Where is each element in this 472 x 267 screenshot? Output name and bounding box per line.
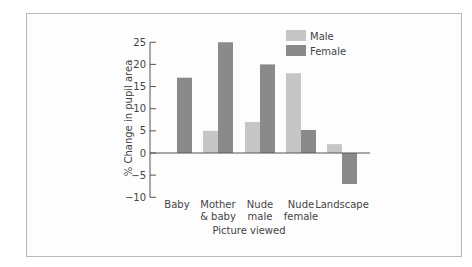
x-tick-label: Baby bbox=[164, 199, 189, 210]
bar-male bbox=[203, 131, 218, 153]
x-axis-title: Picture viewed bbox=[212, 225, 285, 236]
x-tick-label: male bbox=[248, 211, 273, 222]
x-tick-label: Landscape bbox=[315, 199, 369, 210]
x-tick-label: & baby bbox=[200, 211, 236, 222]
y-tick-label: 0 bbox=[140, 148, 146, 159]
legend-label-female: Female bbox=[310, 46, 346, 57]
y-tick-label: 15 bbox=[133, 81, 146, 92]
x-axis-labels: BabyMother& babyNudemaleNudefemaleLandsc… bbox=[164, 199, 369, 222]
bar-female bbox=[260, 64, 275, 153]
legend-swatch-female bbox=[286, 45, 306, 56]
x-tick-label: Nude bbox=[247, 199, 273, 210]
bar-male bbox=[286, 73, 301, 153]
legend: Male Female bbox=[286, 30, 346, 57]
bar-female bbox=[342, 153, 357, 184]
bar-female bbox=[218, 42, 233, 153]
legend-swatch-male bbox=[286, 30, 306, 41]
x-tick-label: female bbox=[284, 211, 318, 222]
bar-female bbox=[301, 130, 316, 153]
bar-male bbox=[327, 144, 342, 153]
y-tick-label: 25 bbox=[133, 37, 146, 48]
y-tick-label: 5 bbox=[140, 125, 146, 136]
bar-male bbox=[245, 122, 260, 153]
y-axis-title: % Change in pupil area bbox=[123, 60, 134, 177]
legend-label-male: Male bbox=[310, 31, 334, 42]
y-tick-label: 10 bbox=[133, 103, 146, 114]
y-tick-label: 20 bbox=[133, 59, 146, 70]
x-tick-label: Mother bbox=[200, 199, 236, 210]
bar-female bbox=[177, 78, 192, 153]
bars bbox=[177, 42, 357, 184]
bar-chart: 2520151050−5−10 BabyMother& babyNudemale… bbox=[0, 0, 472, 267]
x-tick-label: Nude bbox=[288, 199, 314, 210]
y-tick-label: −10 bbox=[125, 192, 146, 203]
